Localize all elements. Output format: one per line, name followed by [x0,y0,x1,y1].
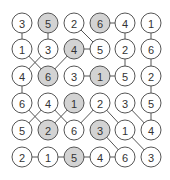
cell-value: 5 [45,18,51,30]
cell-r0-c3[interactable]: 6 [90,13,110,33]
cell-value: 2 [45,125,51,137]
cell-value: 4 [45,98,51,110]
cell-r5-c0[interactable]: 2 [12,147,32,167]
cell-value: 3 [148,152,154,164]
cell-r4-c0[interactable]: 5 [12,120,32,140]
cell-r2-c1[interactable]: 6 [38,66,58,86]
cell-value: 4 [19,71,25,83]
cell-value: 1 [122,125,128,137]
cell-value: 5 [97,44,103,56]
cell-r4-c2[interactable]: 6 [64,120,84,140]
cell-value: 2 [71,18,77,30]
cell-r3-c5[interactable]: 5 [141,93,161,113]
cell-value: 2 [97,98,103,110]
cell-r2-c3[interactable]: 1 [90,66,110,86]
cell-r3-c3[interactable]: 2 [90,93,110,113]
cell-value: 4 [148,125,154,137]
cell-value: 3 [19,18,25,30]
cell-r0-c0[interactable]: 3 [12,13,32,33]
cell-r1-c0[interactable]: 1 [12,39,32,59]
puzzle-board: 352641134526463152641235526314215463 [0,0,170,180]
cell-r3-c0[interactable]: 6 [12,93,32,113]
cell-value: 6 [71,125,77,137]
cell-value: 5 [19,125,25,137]
cell-r5-c2[interactable]: 5 [64,147,84,167]
cell-value: 1 [97,71,103,83]
cell-r0-c1[interactable]: 5 [38,13,58,33]
cell-r5-c1[interactable]: 1 [38,147,58,167]
cell-value: 3 [97,125,103,137]
cell-r3-c2[interactable]: 1 [64,93,84,113]
cell-r5-c5[interactable]: 3 [141,147,161,167]
cell-r1-c3[interactable]: 5 [90,39,110,59]
cell-value: 4 [122,18,128,30]
cell-value: 5 [148,98,154,110]
cell-value: 1 [148,18,154,30]
cell-r2-c2[interactable]: 3 [64,66,84,86]
cell-value: 2 [122,44,128,56]
cell-r4-c5[interactable]: 4 [141,120,161,140]
cell-value: 6 [148,44,154,56]
cell-r5-c3[interactable]: 4 [90,147,110,167]
cell-value: 1 [45,152,51,164]
cell-r2-c4[interactable]: 5 [115,66,135,86]
cell-value: 6 [97,18,103,30]
cell-value: 6 [45,71,51,83]
cell-value: 2 [148,71,154,83]
cell-value: 3 [71,71,77,83]
cell-r3-c4[interactable]: 3 [115,93,135,113]
cell-value: 3 [45,44,51,56]
cell-r1-c4[interactable]: 2 [115,39,135,59]
cell-value: 4 [71,44,77,56]
cell-value: 1 [71,98,77,110]
cell-value: 3 [122,98,128,110]
cell-r5-c4[interactable]: 6 [115,147,135,167]
cell-r1-c2[interactable]: 4 [64,39,84,59]
cell-value: 4 [97,152,103,164]
cell-r1-c5[interactable]: 6 [141,39,161,59]
cell-r3-c1[interactable]: 4 [38,93,58,113]
cell-r0-c4[interactable]: 4 [115,13,135,33]
cell-value: 1 [19,44,25,56]
cell-value: 6 [19,98,25,110]
cell-value: 5 [71,152,77,164]
cell-r0-c5[interactable]: 1 [141,13,161,33]
cell-r0-c2[interactable]: 2 [64,13,84,33]
cell-r2-c5[interactable]: 2 [141,66,161,86]
cell-r1-c1[interactable]: 3 [38,39,58,59]
cell-r4-c4[interactable]: 1 [115,120,135,140]
cell-r4-c1[interactable]: 2 [38,120,58,140]
cell-value: 5 [122,71,128,83]
cell-value: 2 [19,152,25,164]
cell-value: 6 [122,152,128,164]
cell-r4-c3[interactable]: 3 [90,120,110,140]
cell-r2-c0[interactable]: 4 [12,66,32,86]
